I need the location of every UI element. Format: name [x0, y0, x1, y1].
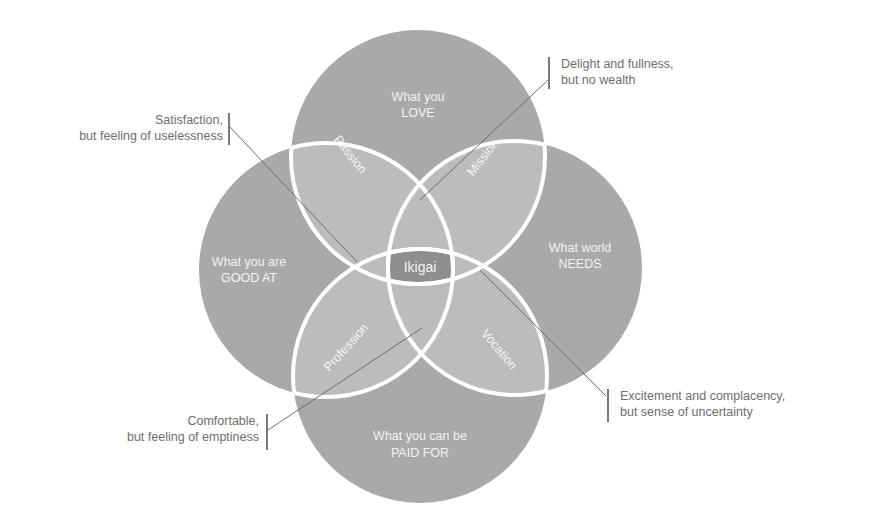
label-love: What you	[392, 90, 445, 104]
annotation-bar-vocation	[607, 389, 609, 422]
label-paid-for: What you can be	[373, 429, 467, 443]
annotation-profession: Comfortable, but feeling of emptiness	[127, 413, 259, 445]
label-love-2: LOVE	[401, 106, 434, 120]
annotation-bar-mission	[548, 57, 550, 89]
annotation-mission: Delight and fullness, but no wealth	[561, 56, 674, 88]
label-good-at-2: GOOD AT	[221, 271, 277, 285]
ikigai-venn-diagram: What you LOVE What you are GOOD AT What …	[0, 0, 869, 530]
label-needs: What world	[549, 241, 612, 255]
label-paid-for-2: PAID FOR	[391, 446, 449, 460]
label-needs-2: NEEDS	[558, 257, 601, 271]
label-ikigai: Ikigai	[404, 259, 437, 275]
annotation-bar-profession	[266, 414, 268, 450]
label-good-at: What you are	[212, 255, 286, 269]
annotation-vocation: Excitement and complacency, but sense of…	[620, 388, 785, 420]
annotation-bar-passion	[228, 113, 230, 145]
annotation-passion: Satisfaction, but feeling of uselessness	[79, 112, 223, 144]
